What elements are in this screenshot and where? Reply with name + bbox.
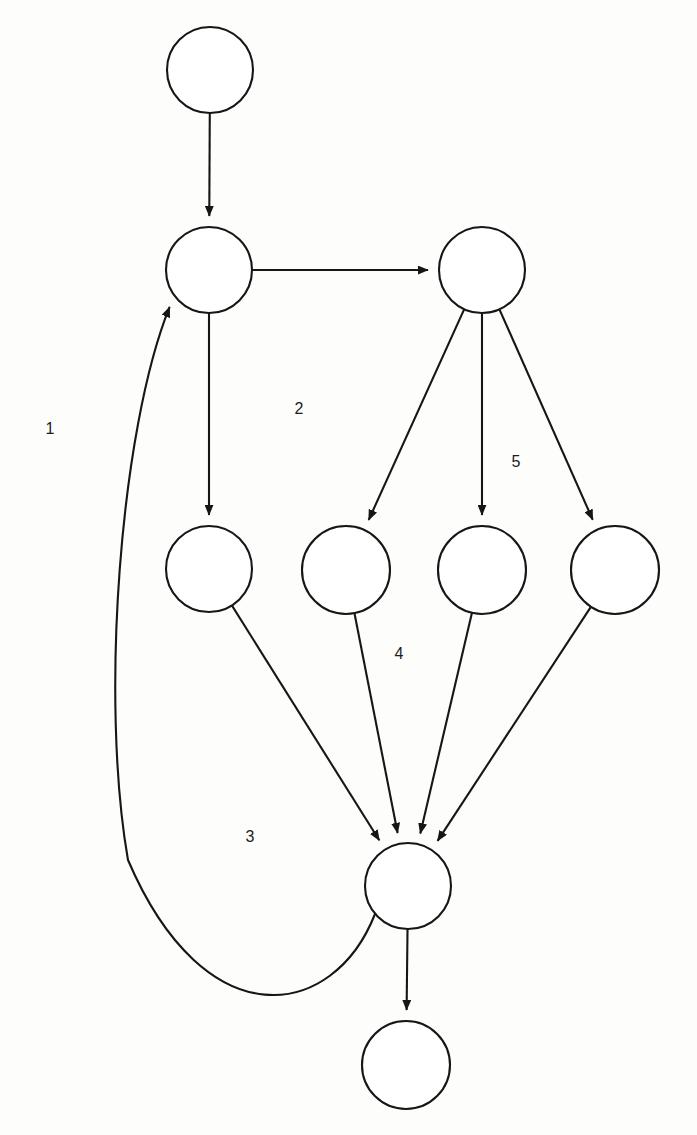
edge-convergence-to-bottom[interactable] bbox=[407, 929, 408, 1010]
edge-top-to-second-left[interactable] bbox=[209, 113, 210, 216]
node-second-right[interactable] bbox=[439, 227, 525, 313]
edge-second-right-to-middle-4[interactable] bbox=[499, 309, 592, 519]
node-second-left[interactable] bbox=[166, 227, 252, 313]
node-middle-2[interactable] bbox=[302, 526, 390, 614]
edge-label-4: 4 bbox=[395, 645, 404, 662]
nodes-layer bbox=[166, 27, 659, 1109]
edge-middle-1-to-convergence[interactable] bbox=[232, 605, 379, 840]
edge-second-right-to-middle-2[interactable] bbox=[369, 309, 465, 520]
edge-label-3: 3 bbox=[246, 828, 255, 845]
edge-middle-2-to-convergence[interactable] bbox=[354, 613, 397, 833]
node-top[interactable] bbox=[167, 27, 253, 113]
directed-graph-svg: 12345 bbox=[0, 0, 697, 1135]
edge-middle-4-to-convergence[interactable] bbox=[438, 607, 591, 841]
node-middle-3[interactable] bbox=[438, 526, 526, 614]
diagram-canvas: 12345 bbox=[0, 0, 697, 1135]
node-middle-4[interactable] bbox=[571, 526, 659, 614]
node-middle-1[interactable] bbox=[166, 526, 252, 612]
node-convergence[interactable] bbox=[365, 843, 451, 929]
edge-label-1: 1 bbox=[46, 420, 55, 437]
edge-label-2: 2 bbox=[295, 400, 304, 417]
edge-feedback-convergence-to-second-left[interactable] bbox=[115, 307, 375, 995]
edge-label-5: 5 bbox=[512, 453, 521, 470]
node-bottom[interactable] bbox=[362, 1021, 450, 1109]
